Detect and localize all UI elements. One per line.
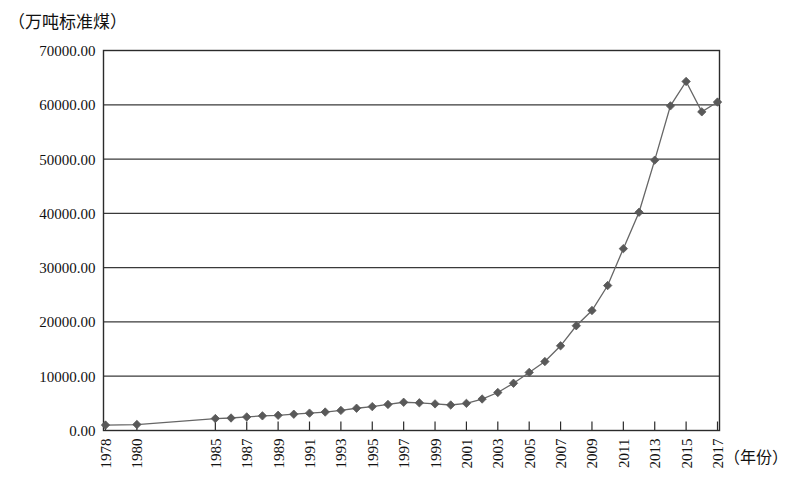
data-point-marker — [305, 409, 313, 417]
data-point-marker — [447, 401, 455, 409]
y-tick-label: 30000.00 — [39, 260, 95, 276]
data-point-marker — [274, 411, 282, 419]
data-point-marker — [509, 379, 517, 387]
x-tick-label: 1980 — [129, 439, 145, 469]
data-point-marker — [415, 399, 423, 407]
data-point-marker — [368, 402, 376, 410]
data-point-marker — [651, 156, 659, 164]
data-point-marker — [399, 398, 407, 406]
y-tick-labels-group: 0.0010000.0020000.0030000.0040000.005000… — [39, 43, 95, 439]
x-tick-label: 2001 — [459, 439, 475, 469]
series-line — [106, 81, 718, 425]
data-point-marker — [666, 102, 674, 110]
y-tick-label: 10000.00 — [39, 369, 95, 385]
x-tick-label: 2005 — [522, 439, 538, 469]
y-tick-label: 20000.00 — [39, 314, 95, 330]
x-tick-label: 2007 — [553, 438, 569, 469]
x-tick-label: 2015 — [679, 439, 695, 469]
x-tick-label: 1978 — [98, 439, 114, 469]
chart-svg: 0.0010000.0020000.0030000.0040000.005000… — [0, 0, 791, 481]
x-tick-label: 1991 — [302, 439, 318, 469]
data-point-marker — [384, 400, 392, 408]
data-point-marker — [258, 412, 266, 420]
x-tick-label: 2017 — [710, 438, 726, 469]
x-tick-label: 1999 — [428, 439, 444, 469]
data-point-marker — [352, 404, 360, 412]
data-point-marker — [478, 395, 486, 403]
x-tick-label: 1987 — [239, 438, 255, 469]
x-tick-label: 2011 — [616, 439, 632, 468]
data-point-marker — [243, 413, 251, 421]
data-point-marker — [337, 406, 345, 414]
data-point-marker — [101, 421, 109, 429]
x-tick-label: 2003 — [490, 439, 506, 469]
y-tick-label: 70000.00 — [39, 43, 95, 59]
x-tick-label: 1995 — [365, 439, 381, 469]
x-tick-label: 1997 — [396, 438, 412, 469]
y-tick-label: 0.00 — [69, 423, 95, 439]
data-point-marker — [619, 244, 627, 252]
data-point-marker — [494, 388, 502, 396]
data-point-marker — [227, 414, 235, 422]
data-point-marker — [603, 281, 611, 289]
x-tick-label: 2013 — [647, 439, 663, 469]
y-tick-label: 40000.00 — [39, 206, 95, 222]
y-tick-label: 50000.00 — [39, 152, 95, 168]
data-point-marker — [635, 208, 643, 216]
data-point-marker — [525, 368, 533, 376]
data-point-marker — [682, 77, 690, 85]
data-point-marker — [431, 400, 439, 408]
x-tick-labels-group: 1978198019851987198919911993199519971999… — [98, 438, 726, 469]
energy-consumption-chart: （万吨标准煤） （年份） 0.0010000.0020000.0030000.0… — [0, 0, 791, 481]
data-point-marker — [211, 414, 219, 422]
x-tick-label: 2009 — [584, 439, 600, 469]
data-point-marker — [133, 420, 141, 428]
data-point-marker — [290, 410, 298, 418]
x-tick-label: 1989 — [271, 439, 287, 469]
data-point-marker — [321, 408, 329, 416]
y-tick-label: 60000.00 — [39, 97, 95, 113]
data-point-marker — [698, 108, 706, 116]
x-tick-label: 1993 — [333, 439, 349, 469]
x-tick-label: 1985 — [208, 439, 224, 469]
data-point-marker — [462, 399, 470, 407]
x-tick-marks-group — [106, 422, 718, 431]
